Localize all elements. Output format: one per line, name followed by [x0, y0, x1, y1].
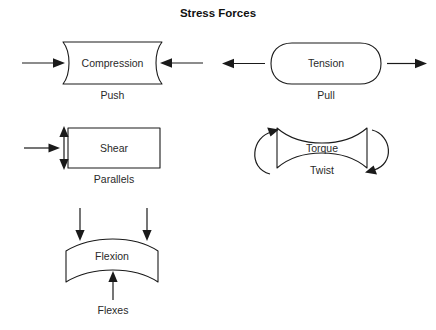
- shear-vertical-double-arrow: [59, 126, 68, 170]
- compression-group: Compression Push: [22, 42, 203, 101]
- compression-caption: Push: [101, 89, 125, 101]
- page-title: Stress Forces: [180, 7, 256, 19]
- compression-right-arrow: [160, 58, 203, 68]
- torque-label: Torque: [306, 142, 338, 154]
- flexion-group: Flexion Flexes: [66, 208, 158, 316]
- torque-left-curve-arrow: [255, 128, 279, 174]
- shear-group: Shear Parallels: [24, 126, 160, 185]
- flexion-up-arrow: [108, 271, 117, 300]
- torque-right-curve-arrow: [365, 130, 388, 174]
- torque-group: Torque Twist: [255, 128, 389, 176]
- stress-forces-diagram: Stress Forces Compression Push Tension: [0, 0, 436, 330]
- tension-right-arrow: [387, 59, 427, 69]
- tension-label: Tension: [308, 57, 344, 69]
- shear-caption: Parallels: [94, 173, 134, 185]
- tension-caption: Pull: [317, 89, 335, 101]
- flexion-caption: Flexes: [98, 304, 129, 316]
- flexion-down-arrow-left: [75, 208, 84, 241]
- shear-label: Shear: [100, 142, 129, 154]
- torque-caption: Twist: [310, 164, 334, 176]
- compression-label: Compression: [82, 57, 144, 69]
- flexion-label: Flexion: [95, 250, 129, 262]
- tension-group: Tension Pull: [222, 43, 427, 101]
- tension-left-arrow: [222, 59, 265, 69]
- diagram-canvas: Stress Forces Compression Push Tension: [0, 0, 436, 330]
- shear-horizontal-arrow: [24, 143, 60, 152]
- flexion-down-arrow-right: [142, 208, 151, 241]
- compression-left-arrow: [22, 58, 65, 68]
